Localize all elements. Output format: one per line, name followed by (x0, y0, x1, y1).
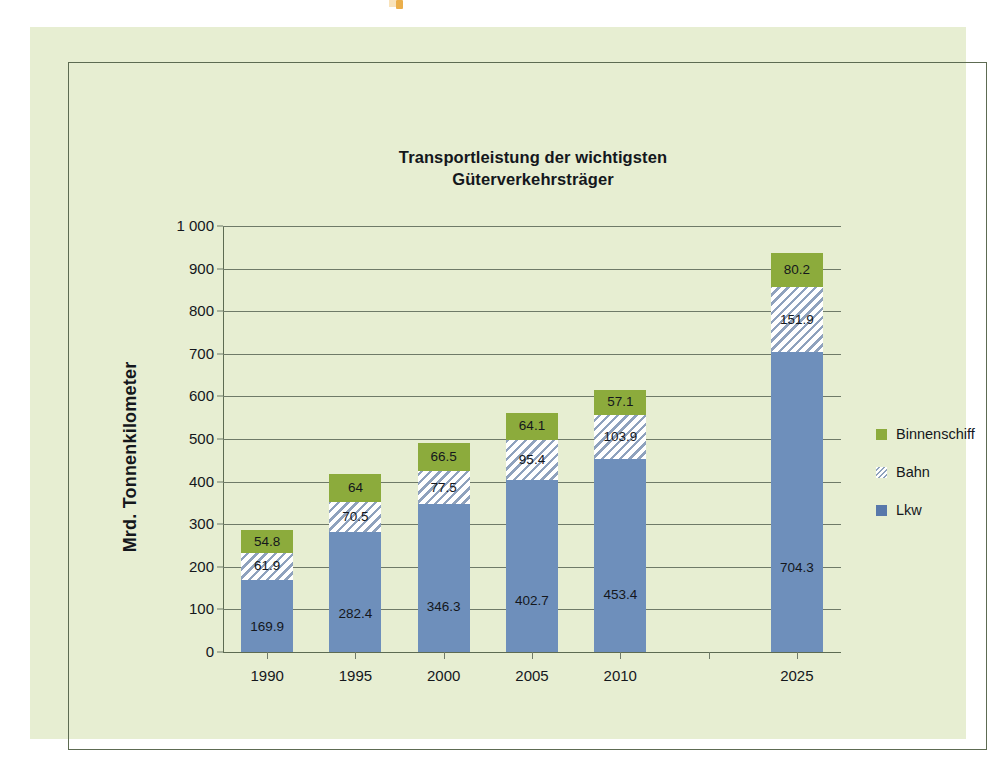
bar-value-label: 80.2 (771, 263, 823, 277)
bar-value-label: 704.3 (771, 561, 823, 575)
y-tick-mark (217, 524, 223, 525)
x-tick-label-2005: 2005 (515, 667, 548, 684)
legend-swatch-icon (876, 429, 887, 440)
y-tick-mark (217, 268, 223, 269)
y-tick-label: 900 (189, 260, 214, 277)
y-tick-label: 300 (189, 515, 214, 532)
y-tick-mark (217, 226, 223, 227)
legend-label: Bahn (896, 464, 930, 480)
chart-title-line-1: Transportleistung der wichtigsten (223, 147, 843, 169)
bar-segment-binnenschiff-1990[interactable]: 54.8 (241, 530, 293, 553)
bar-column-2010[interactable]: 453.4103.957.1 (594, 226, 646, 652)
x-tick-mark (267, 652, 268, 659)
bar-column-1995[interactable]: 282.470.564 (329, 226, 381, 652)
x-tick-label-2010: 2010 (604, 667, 637, 684)
bar-segment-lkw-2010[interactable]: 453.4 (594, 459, 646, 652)
x-tick-mark (355, 652, 356, 659)
y-tick-label: 200 (189, 558, 214, 575)
bar-value-label: 54.8 (241, 535, 293, 549)
x-tick-mark (620, 652, 621, 659)
bar-value-label: 70.5 (329, 510, 381, 524)
bar-segment-binnenschiff-2010[interactable]: 57.1 (594, 390, 646, 414)
bar-column-2005[interactable]: 402.795.464.1 (506, 226, 558, 652)
bar-value-label: 103.9 (594, 430, 646, 444)
legend-swatch-icon (876, 505, 887, 516)
y-tick-label: 800 (189, 302, 214, 319)
y-tick-label: 400 (189, 473, 214, 490)
y-tick-label: 600 (189, 388, 214, 405)
bar-segment-binnenschiff-2000[interactable]: 66.5 (418, 443, 470, 471)
scanned-page: Transportleistung der wichtigsten Güterv… (30, 27, 966, 739)
y-tick-label: 700 (189, 345, 214, 362)
bar-column-2025[interactable]: 704.3151.980.2 (771, 226, 823, 652)
bar-value-label: 64.1 (506, 419, 558, 433)
x-tick-label-1990: 1990 (250, 667, 283, 684)
y-tick-label: 1 000 (176, 217, 214, 234)
legend-swatch-icon (876, 467, 887, 478)
x-tick-mark (709, 652, 710, 659)
x-tick-label-2000: 2000 (427, 667, 460, 684)
bar-segment-bahn-2025[interactable]: 151.9 (771, 287, 823, 352)
y-tick-mark (217, 311, 223, 312)
y-tick-label: 100 (189, 601, 214, 618)
y-tick-mark (217, 652, 223, 653)
legend-item-binnenschiff[interactable]: Binnenschiff (876, 415, 986, 453)
chart-title-line-2: Güterverkehrsträger (223, 169, 843, 191)
y-tick-mark (217, 481, 223, 482)
plot-area: 1 00090080070060050040030020010001990169… (223, 226, 841, 652)
y-tick-mark (217, 609, 223, 610)
bar-value-label: 57.1 (594, 396, 646, 410)
bar-segment-bahn-1995[interactable]: 70.5 (329, 502, 381, 532)
bar-segment-lkw-2000[interactable]: 346.3 (418, 504, 470, 652)
y-tick-label: 500 (189, 430, 214, 447)
bar-value-label: 151.9 (771, 313, 823, 327)
bar-segment-bahn-2010[interactable]: 103.9 (594, 415, 646, 459)
y-tick-label: 0 (206, 643, 214, 660)
bar-value-label: 346.3 (418, 600, 470, 614)
legend-label: Lkw (896, 502, 922, 518)
bar-value-label: 77.5 (418, 481, 470, 495)
y-axis-title: Mrd. Tonnenkilometer (116, 317, 144, 597)
legend-item-bahn[interactable]: Bahn (876, 453, 986, 491)
scan-artifact-mark (396, 0, 403, 9)
bar-column-2000[interactable]: 346.377.566.5 (418, 226, 470, 652)
bar-segment-bahn-2005[interactable]: 95.4 (506, 440, 558, 481)
y-tick-mark (217, 396, 223, 397)
bar-value-label: 64 (329, 481, 381, 495)
legend-item-lkw[interactable]: Lkw (876, 491, 986, 529)
bar-value-label: 61.9 (241, 560, 293, 574)
y-tick-mark (217, 439, 223, 440)
bar-value-label: 402.7 (506, 594, 558, 608)
y-tick-mark (217, 353, 223, 354)
bar-segment-binnenschiff-2005[interactable]: 64.1 (506, 413, 558, 440)
bar-segment-lkw-2005[interactable]: 402.7 (506, 480, 558, 652)
x-tick-label-1995: 1995 (339, 667, 372, 684)
bar-value-label: 169.9 (241, 620, 293, 634)
x-tick-mark (797, 652, 798, 659)
bar-value-label: 95.4 (506, 453, 558, 467)
x-tick-mark (444, 652, 445, 659)
bar-column-1990[interactable]: 169.961.954.8 (241, 226, 293, 652)
bar-value-label: 453.4 (594, 588, 646, 602)
bar-segment-binnenschiff-1995[interactable]: 64 (329, 474, 381, 501)
chart-title: Transportleistung der wichtigsten Güterv… (223, 147, 843, 191)
y-tick-mark (217, 566, 223, 567)
bar-segment-lkw-1990[interactable]: 169.9 (241, 580, 293, 652)
bar-segment-bahn-1990[interactable]: 61.9 (241, 553, 293, 579)
chart-legend: BinnenschiffBahnLkw (876, 415, 986, 529)
bar-value-label: 66.5 (418, 451, 470, 465)
legend-label: Binnenschiff (896, 426, 975, 442)
bar-segment-lkw-2025[interactable]: 704.3 (771, 352, 823, 652)
bar-value-label: 282.4 (329, 607, 381, 621)
x-tick-label-2025: 2025 (780, 667, 813, 684)
x-tick-mark (532, 652, 533, 659)
bar-segment-lkw-1995[interactable]: 282.4 (329, 532, 381, 652)
bar-segment-binnenschiff-2025[interactable]: 80.2 (771, 253, 823, 287)
bar-segment-bahn-2000[interactable]: 77.5 (418, 471, 470, 504)
